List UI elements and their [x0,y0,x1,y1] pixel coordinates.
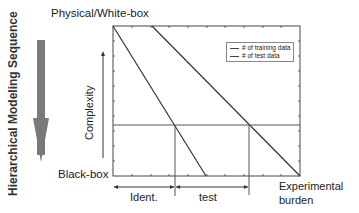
legend-item-test: # of test data [230,52,290,60]
legend-swatch-icon [230,56,239,57]
black-box-label: Black-box [58,168,109,180]
test-range-arrow [176,185,248,189]
hierarchical-modeling-sequence-title: Hierarchical Modeling Sequence [6,11,20,196]
white-box-label: Physical/White-box [51,7,149,19]
complexity-arrow-icon [101,51,105,158]
ident-range-arrow [114,185,174,189]
experimental-label: Experimental [279,180,343,192]
test-label: test [199,191,217,203]
down-arrow-icon [33,40,49,162]
ident-label: Ident. [130,191,158,203]
legend-item-training: # of training data [230,44,290,52]
legend: # of training data # of test data [226,42,294,62]
legend-swatch-icon [230,48,239,49]
complexity-label: Complexity [83,86,95,140]
burden-label: burden [279,194,313,206]
training-data-line [113,26,206,176]
